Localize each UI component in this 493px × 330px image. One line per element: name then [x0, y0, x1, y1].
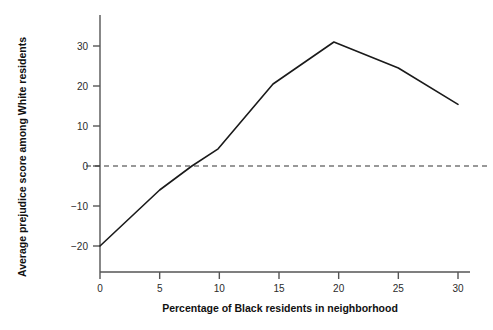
- x-tick-label-15: 15: [273, 283, 284, 294]
- x-tick-label-20: 20: [333, 283, 344, 294]
- x-axis-ticks: [100, 272, 458, 279]
- y-tick-label-30: 30: [58, 41, 88, 52]
- x-tick-label-30: 30: [452, 283, 463, 294]
- y-tick-label-0: 0: [58, 161, 88, 172]
- chart-figure: Average prejudice score among White resi…: [0, 0, 493, 330]
- x-tick-label-5: 5: [157, 283, 163, 294]
- y-axis-ticks: [93, 46, 100, 246]
- x-axis-title: Percentage of Black residents in neighbo…: [85, 302, 475, 314]
- data-series-group: [100, 42, 458, 246]
- y-tick-label--10: −10: [58, 201, 88, 212]
- x-tick-label-0: 0: [97, 283, 103, 294]
- x-tick-label-25: 25: [393, 283, 404, 294]
- data-line-0: [100, 42, 458, 246]
- y-tick-label-10: 10: [58, 121, 88, 132]
- y-tick-label--20: −20: [58, 241, 88, 252]
- y-tick-label-20: 20: [58, 81, 88, 92]
- x-tick-label-10: 10: [214, 283, 225, 294]
